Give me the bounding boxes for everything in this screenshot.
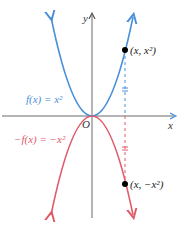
origin-label: O: [82, 118, 90, 130]
reflection-diagram: y x O f(x) = x² −f(x) = −x² (x, x²) (x, …: [0, 0, 182, 228]
point-upper: [122, 47, 128, 53]
y-axis-label: y: [82, 12, 88, 24]
neg-f-equation-label: −f(x) = −x²: [14, 133, 66, 146]
point-upper-label: (x, x²): [130, 44, 156, 57]
f-equation-label: f(x) = x²: [26, 93, 63, 106]
point-lower: [122, 181, 128, 187]
point-lower-label: (x, −x²): [130, 178, 164, 191]
equal-tick-upper: [122, 88, 128, 91]
x-axis-label: x: [167, 119, 173, 131]
